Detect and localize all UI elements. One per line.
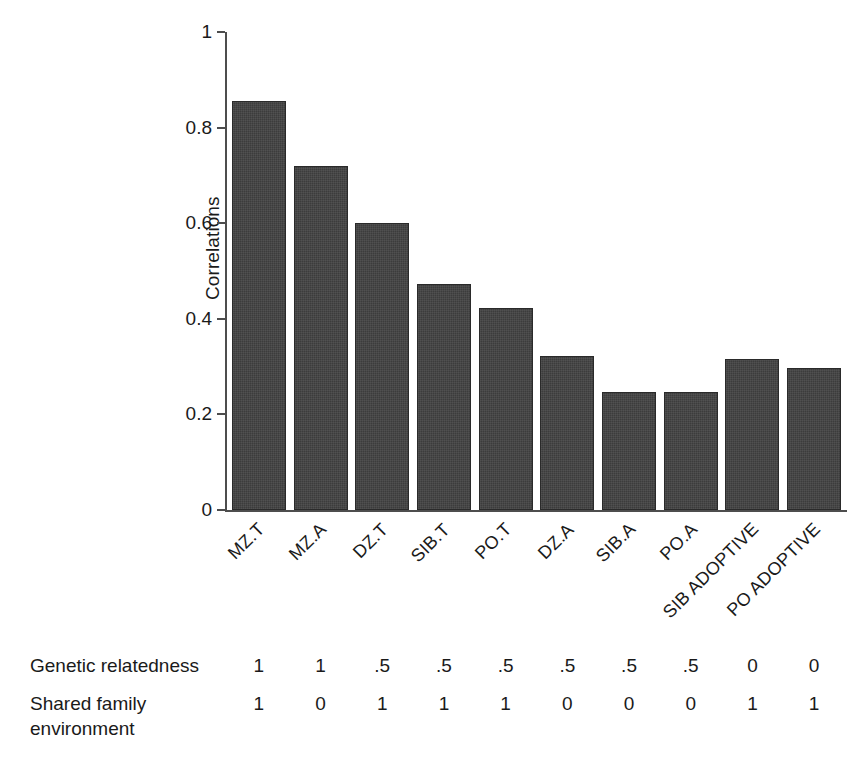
y-axis-tick-label: 0 xyxy=(0,500,212,519)
y-axis-tick-mark xyxy=(217,222,225,224)
bar xyxy=(787,368,841,510)
annotation-cell: 0 xyxy=(794,653,834,678)
annotation-cell: 1 xyxy=(362,691,402,716)
annotation-cell: .5 xyxy=(547,653,587,678)
annotation-cell: 1 xyxy=(732,691,772,716)
y-axis-line xyxy=(225,32,227,511)
x-axis-line xyxy=(225,510,847,512)
x-axis-tick-label: MZ.T xyxy=(224,519,269,564)
y-axis-tick-label: 1 xyxy=(0,22,212,41)
annotation-cell: .5 xyxy=(424,653,464,678)
annotation-cell: 0 xyxy=(671,691,711,716)
annotation-cell: .5 xyxy=(609,653,649,678)
annotation-cell: 0 xyxy=(301,691,341,716)
x-axis-tick-label: SIB.A xyxy=(592,519,640,567)
annotation-cell: .5 xyxy=(486,653,526,678)
bar xyxy=(355,223,409,510)
bar xyxy=(294,166,348,510)
annotation-cell: .5 xyxy=(671,653,711,678)
annotation-cell: .5 xyxy=(362,653,402,678)
annotation-cell: 1 xyxy=(301,653,341,678)
row-label-shared-family-environment: Shared family environment xyxy=(30,691,146,741)
y-axis-tick-mark xyxy=(217,509,225,511)
y-axis-tick-label: 0.4 xyxy=(0,309,212,328)
x-axis-tick-label: PO.A xyxy=(656,519,702,565)
annotation-cell: 1 xyxy=(239,653,279,678)
annotation-cell: 0 xyxy=(732,653,772,678)
bar xyxy=(725,359,779,510)
annotation-cell: 0 xyxy=(547,691,587,716)
correlations-bar-chart-figure: Correlations 10.80.60.40.20 MZ.TMZ.ADZ.T… xyxy=(0,0,862,764)
x-axis-tick-label: PO.T xyxy=(471,519,516,564)
y-axis-tick-mark xyxy=(217,127,225,129)
x-axis-tick-label: MZ.A xyxy=(285,519,331,565)
annotation-cell: 1 xyxy=(794,691,834,716)
x-axis-tick-label: DZ.A xyxy=(534,519,578,563)
x-axis-tick-label: SIB.T xyxy=(407,519,454,566)
bar xyxy=(540,356,594,510)
bar xyxy=(417,284,471,510)
row-label-genetic-relatedness: Genetic relatedness xyxy=(30,653,199,678)
bar xyxy=(479,308,533,510)
bar xyxy=(664,392,718,510)
annotation-cell: 0 xyxy=(609,691,649,716)
annotation-cell: 1 xyxy=(424,691,464,716)
bar xyxy=(602,392,656,510)
annotation-table: Genetic relatedness Shared family enviro… xyxy=(0,653,862,764)
annotation-cell: 1 xyxy=(239,691,279,716)
bar xyxy=(232,101,286,510)
y-axis-tick-mark xyxy=(217,31,225,33)
y-axis-tick-mark xyxy=(217,318,225,320)
y-axis-tick-label: 0.6 xyxy=(0,213,212,232)
y-axis-tick-label: 0.2 xyxy=(0,404,212,423)
annotation-cell: 1 xyxy=(486,691,526,716)
y-axis-tick-label: 0.8 xyxy=(0,118,212,137)
x-axis-tick-label: DZ.T xyxy=(349,519,393,563)
plot-area: Correlations xyxy=(228,32,845,510)
y-axis-tick-mark xyxy=(217,413,225,415)
